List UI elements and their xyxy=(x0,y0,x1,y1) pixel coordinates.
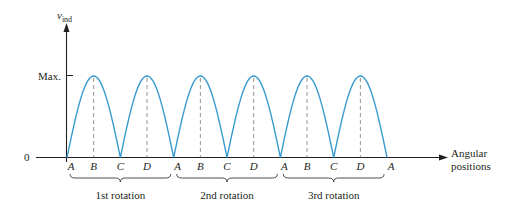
rectified-sine-curve xyxy=(67,76,387,158)
rotation-label: 1st rotation xyxy=(95,189,145,201)
x-tick-label: B xyxy=(90,160,97,172)
x-axis-label-line2: positions xyxy=(451,160,491,172)
peak-dashed-lines xyxy=(94,78,361,158)
x-tick-label: C xyxy=(223,160,231,172)
rotation-brace xyxy=(70,174,171,182)
x-tick-label: C xyxy=(117,160,125,172)
x-tick-label: B xyxy=(197,160,204,172)
x-tick-label: A xyxy=(173,160,181,172)
x-tick-label: D xyxy=(355,160,364,172)
rotation-braces xyxy=(70,174,384,182)
rotation-label: 3rd rotation xyxy=(308,189,360,201)
rotation-labels: 1st rotation2nd rotation3rd rotation xyxy=(95,189,360,201)
waveform-chart: vind Max. 0 Angular positions ABCDABCDAB… xyxy=(0,0,506,208)
rotation-brace xyxy=(283,174,384,182)
x-axis-arrow-icon xyxy=(439,155,448,161)
x-tick-label: A xyxy=(387,160,395,172)
x-tick-label: B xyxy=(304,160,311,172)
x-axis-label-line1: Angular xyxy=(451,147,487,159)
rotation-brace xyxy=(177,174,278,182)
x-tick-labels: ABCDABCDABCDA xyxy=(67,160,395,172)
x-tick-label: A xyxy=(67,160,75,172)
y-axis-label: vind xyxy=(57,9,72,24)
rotation-label: 2nd rotation xyxy=(200,189,254,201)
y-axis-label-subscript: ind xyxy=(62,15,72,24)
x-tick-label: D xyxy=(249,160,258,172)
x-tick-label: D xyxy=(142,160,151,172)
x-tick-label: A xyxy=(280,160,288,172)
y-axis-arrow-icon xyxy=(64,23,70,32)
y-tick-zero-label: 0 xyxy=(24,151,30,163)
x-tick-label: C xyxy=(330,160,338,172)
y-tick-max-label: Max. xyxy=(38,70,61,82)
